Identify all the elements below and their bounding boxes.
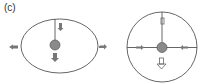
small-down-arrow-icon [161,18,164,24]
ball [50,40,60,50]
inward-arrow-left-icon [136,45,144,50]
middle-arrow-icon [100,44,107,50]
diagram-canvas [0,0,200,83]
down-arrow-icon [51,53,59,62]
ball [157,43,167,53]
inward-arrow-right-icon [180,45,188,50]
left-ellipse-diagram [9,19,101,73]
small-down-arrow-icon [58,23,64,31]
left-arrow-icon [9,45,18,50]
down-arrow-icon [157,58,166,69]
right-circle-diagram [127,12,197,82]
